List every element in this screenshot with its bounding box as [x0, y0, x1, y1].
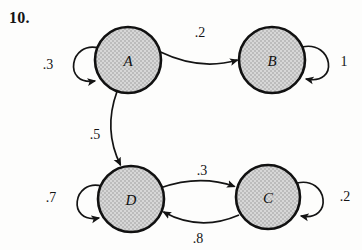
diagram-canvas — [0, 0, 362, 250]
node-a[interactable] — [95, 27, 161, 93]
edge-label-d-to-c: .3 — [197, 164, 208, 178]
edge-a-to-d — [111, 92, 121, 166]
state-diagram-figure: 10. — [0, 0, 362, 250]
self-loop-label-d: .7 — [46, 191, 57, 205]
self-loop-label-a: .3 — [43, 58, 54, 72]
edge-label-a-to-b: .2 — [195, 26, 206, 40]
edge-c-to-d — [164, 212, 240, 223]
node-d[interactable] — [98, 166, 164, 232]
self-loop-label-b: 1 — [341, 55, 348, 69]
edge-label-c-to-d: .8 — [193, 232, 204, 246]
edge-a-to-b — [161, 52, 238, 64]
node-b[interactable] — [239, 27, 305, 93]
self-loop-label-c: .2 — [340, 190, 351, 204]
edge-d-to-c — [160, 181, 235, 188]
edge-label-a-to-d: .5 — [90, 128, 101, 142]
node-c[interactable] — [236, 165, 300, 229]
